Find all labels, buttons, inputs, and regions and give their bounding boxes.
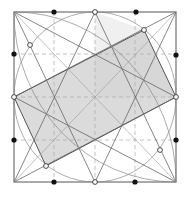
open-point-inner-top-right bbox=[142, 28, 147, 33]
geometric-diagram bbox=[0, 0, 186, 198]
open-point-inner-bottom-left bbox=[44, 164, 49, 169]
open-point-inner-top-left bbox=[28, 43, 33, 48]
filled-point-left-upper bbox=[11, 51, 16, 56]
open-point-right-mid bbox=[174, 95, 179, 100]
open-point-bottom-mid bbox=[93, 180, 98, 185]
filled-point-left-lower bbox=[11, 137, 16, 142]
open-point-left-mid bbox=[12, 95, 17, 100]
filled-point-right-upper bbox=[173, 52, 178, 57]
filled-point-bottom-right bbox=[132, 179, 137, 184]
filled-point-bottom-left bbox=[51, 179, 56, 184]
open-point-inner-bottom-right bbox=[158, 148, 163, 153]
filled-point-top-right bbox=[133, 9, 138, 14]
filled-point-right-lower bbox=[173, 137, 178, 142]
filled-point-top-left bbox=[51, 9, 56, 14]
open-point-top-mid bbox=[93, 10, 98, 15]
